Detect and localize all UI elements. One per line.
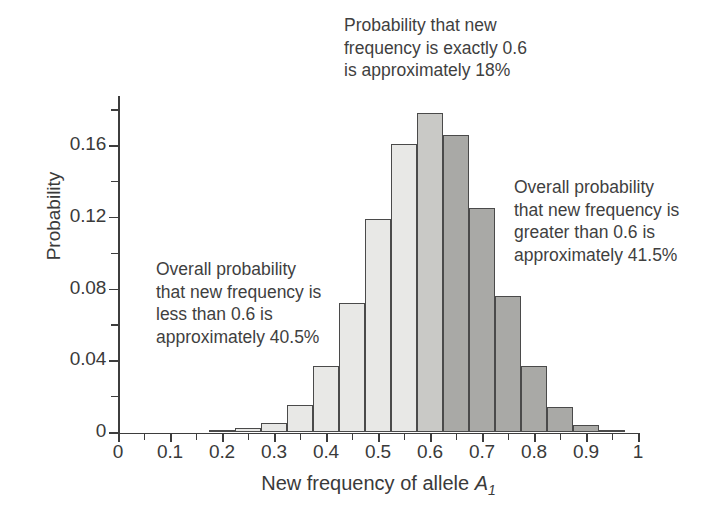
- x-tick-label: 0.2: [209, 441, 235, 463]
- annotation-greater-than-probability: Overall probability that new frequency i…: [514, 176, 719, 266]
- y-tick-minor: [111, 181, 118, 182]
- x-tick-label: 0: [113, 441, 123, 463]
- histogram-bar: [209, 430, 235, 432]
- x-tick-minor: [612, 433, 613, 440]
- allele-symbol: A: [475, 472, 488, 494]
- y-tick-major: [109, 432, 118, 434]
- y-tick-minor: [111, 253, 118, 254]
- histogram-bar: [521, 366, 547, 432]
- y-tick-minor: [111, 324, 118, 325]
- x-tick-minor: [248, 433, 249, 440]
- y-tick-label: 0.12: [70, 205, 106, 227]
- y-tick-label: 0.04: [70, 348, 106, 370]
- x-tick-label: 0.9: [573, 441, 599, 463]
- y-tick-label: 0.16: [70, 133, 106, 155]
- histogram-bar: [417, 113, 443, 432]
- y-tick-major: [109, 289, 118, 291]
- histogram-bar: [313, 366, 339, 432]
- x-tick-label: 0.8: [521, 441, 547, 463]
- y-tick-label: 0: [96, 420, 106, 442]
- y-tick-major: [109, 360, 118, 362]
- y-tick-minor: [111, 396, 118, 397]
- x-tick-minor: [144, 433, 145, 440]
- x-tick-label: 0.6: [417, 441, 443, 463]
- x-tick-label: 0.1: [157, 441, 183, 463]
- x-tick-label: 0.3: [261, 441, 287, 463]
- x-axis-title: New frequency of allele A1: [118, 472, 639, 498]
- x-tick-minor: [196, 433, 197, 440]
- histogram-bar: [339, 303, 365, 432]
- histogram-bar: [599, 430, 625, 432]
- histogram-bar: [287, 405, 313, 432]
- x-tick-minor: [352, 433, 353, 440]
- x-tick-label: 1: [633, 441, 643, 463]
- x-tick-minor: [560, 433, 561, 440]
- y-tick-major: [109, 145, 118, 147]
- x-tick-label: 0.4: [313, 441, 339, 463]
- y-tick-label: 0.08: [70, 277, 106, 299]
- x-tick-minor: [456, 433, 457, 440]
- histogram-bar: [495, 296, 521, 432]
- histogram-bar: [443, 135, 469, 432]
- histogram-bar: [573, 425, 599, 432]
- allele-subscript: 1: [488, 482, 496, 498]
- x-tick-minor: [508, 433, 509, 440]
- histogram-figure: Probability 00.040.080.120.16 00.10.20.3…: [0, 0, 722, 525]
- histogram-bar: [365, 219, 391, 432]
- histogram-bar: [235, 428, 261, 432]
- annotation-exact-probability: Probability that new frequency is exactl…: [344, 14, 584, 82]
- histogram-bar: [547, 407, 573, 432]
- x-tick-label: 0.7: [469, 441, 495, 463]
- annotation-less-than-probability: Overall probability that new frequency i…: [156, 258, 366, 348]
- histogram-bar: [261, 423, 287, 432]
- histogram-bar: [391, 144, 417, 433]
- y-tick-major: [109, 217, 118, 219]
- histogram-bar: [469, 208, 495, 432]
- x-tick-label: 0.5: [365, 441, 391, 463]
- y-axis-tick-labels: 00.040.080.120.16: [0, 0, 106, 525]
- y-tick-minor: [111, 109, 118, 110]
- x-tick-minor: [300, 433, 301, 440]
- x-tick-minor: [404, 433, 405, 440]
